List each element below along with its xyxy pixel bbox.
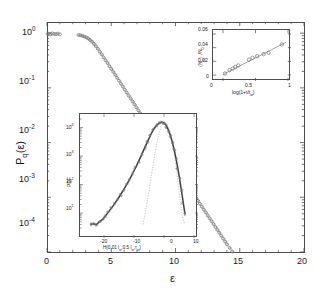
main-ytick-label: 100 bbox=[22, 27, 36, 37]
inset-top-frame bbox=[212, 29, 290, 80]
inset-bottom-yaxis-title: PDF bbox=[66, 177, 72, 187]
main-xtick-label: 0 bbox=[44, 256, 49, 266]
main-xaxis-title: ε bbox=[170, 272, 175, 284]
inset-bottom-data bbox=[80, 114, 198, 238]
inset-top-xtick-label: 0 bbox=[210, 82, 213, 88]
main-yaxis-title: Pq(ε) bbox=[14, 141, 26, 165]
inset-top-data bbox=[213, 30, 291, 81]
main-ytick-label: 10-2 bbox=[19, 125, 35, 135]
inset-bottom-frame bbox=[79, 113, 197, 237]
inset-bottom-ytick-label: 103 bbox=[66, 151, 74, 157]
scientific-figure: 100 10-1 10-2 10-3 10-4 0 5 10 15 20 ε P… bbox=[0, 0, 315, 298]
inset-bottom-xtick-label: -10 bbox=[133, 238, 140, 244]
main-ytick-label: 10-1 bbox=[19, 76, 35, 86]
main-ytick-label: 10-4 bbox=[19, 218, 35, 228]
inset-top-xtick-label: 0.5 bbox=[245, 82, 252, 88]
main-xtick-label: 20 bbox=[297, 256, 307, 266]
inset-top-ytick-label: 0.04 bbox=[198, 41, 208, 47]
main-ytick-label: 10-3 bbox=[19, 174, 35, 184]
inset-top-ytick-label: 0.06 bbox=[198, 26, 208, 32]
inset-bottom-xtick-label: 10 bbox=[193, 238, 199, 244]
inset-bottom-xtick-label: 0 bbox=[170, 238, 173, 244]
inset-bottom-xtick-label: -20 bbox=[100, 238, 107, 244]
inset-top-yaxis-title: 〈Nq〉/N0 bbox=[196, 47, 203, 70]
inset-top-xtick-label: 1 bbox=[288, 82, 291, 88]
inset-bottom-xaxis-title: H(0.01 lw;0.5 lw;τw) bbox=[103, 245, 141, 250]
main-xtick-label: 10 bbox=[169, 256, 179, 266]
main-xtick-label: 15 bbox=[233, 256, 243, 266]
inset-top-ytick-label: 0 bbox=[206, 73, 209, 79]
main-xtick-label: 5 bbox=[108, 256, 113, 266]
inset-top-xaxis-title: log(1+t/tw) bbox=[232, 89, 255, 95]
inset-bottom-ytick-label: 104 bbox=[66, 124, 74, 130]
inset-bottom-ytick-label: 101 bbox=[66, 205, 74, 211]
